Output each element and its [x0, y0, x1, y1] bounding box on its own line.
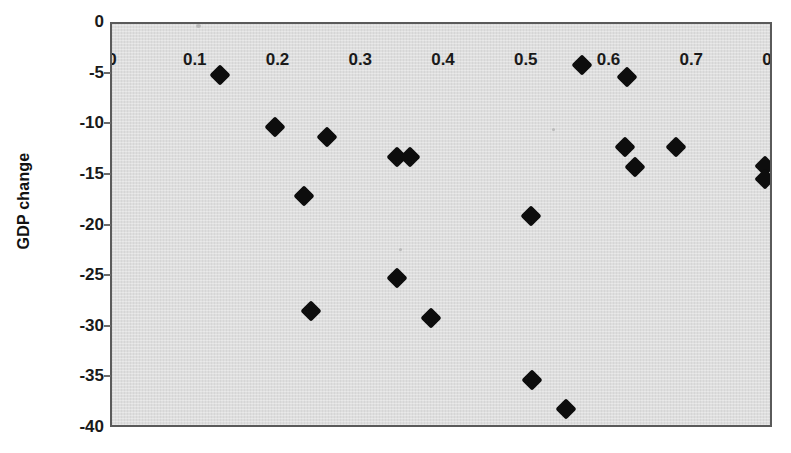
scan-artifact-speck: [399, 248, 402, 251]
y-axis-tick-mark: [104, 173, 111, 175]
y-axis-tick-label: -30: [40, 316, 104, 336]
x-axis-tick-label: 0.6: [597, 50, 621, 70]
data-point: [521, 370, 542, 391]
plot-area: 00.10.20.30.40.50.60.70.8: [110, 22, 772, 427]
data-point: [264, 117, 285, 138]
data-point: [209, 64, 230, 85]
y-axis-tick-label: -15: [40, 164, 104, 184]
x-axis-tick-label: 0.2: [266, 50, 290, 70]
x-axis-tick-label: 0.3: [348, 50, 372, 70]
paper-texture-overlay: [112, 24, 770, 425]
x-axis-tick-label: 0.1: [183, 50, 207, 70]
scatter-chart: GDP change 0-5-10-15-20-25-30-35-40 00.1…: [0, 0, 791, 453]
y-axis-tick-mark: [104, 375, 111, 377]
y-axis-tick-mark: [104, 72, 111, 74]
y-axis-tick-label: -35: [40, 366, 104, 386]
x-axis-tick-label: 0.4: [431, 50, 455, 70]
x-axis-tick-label: 0.5: [514, 50, 538, 70]
y-axis-tick-label: -20: [40, 215, 104, 235]
y-axis-tick-mark: [104, 224, 111, 226]
y-axis-tick-label: -10: [40, 113, 104, 133]
data-point: [556, 398, 577, 419]
y-axis-tick-label: -25: [40, 265, 104, 285]
x-axis-tick-label: 0: [110, 50, 117, 70]
data-point: [571, 54, 592, 75]
y-axis-tick-mark: [104, 325, 111, 327]
data-point: [386, 268, 407, 289]
y-axis-tick-mark: [104, 274, 111, 276]
data-point: [300, 300, 321, 321]
data-point: [665, 136, 686, 157]
data-point: [399, 146, 420, 167]
y-axis-tick-label: -40: [40, 417, 104, 437]
y-axis-tick-mark: [104, 122, 111, 124]
y-axis-tick-label: -5: [40, 63, 104, 83]
scan-artifact-speck: [552, 128, 555, 131]
data-point: [520, 206, 541, 227]
x-axis-tick-label: 0.8: [762, 50, 772, 70]
x-axis-tick-label: 0.7: [679, 50, 703, 70]
data-point: [624, 156, 645, 177]
y-axis-tick-labels: 0-5-10-15-20-25-30-35-40: [26, 0, 104, 453]
y-axis-tick-label: 0: [40, 12, 104, 32]
data-point: [614, 136, 635, 157]
data-point: [317, 127, 338, 148]
data-point: [293, 186, 314, 207]
data-point: [420, 307, 441, 328]
scan-artifact-speck: [196, 24, 201, 28]
